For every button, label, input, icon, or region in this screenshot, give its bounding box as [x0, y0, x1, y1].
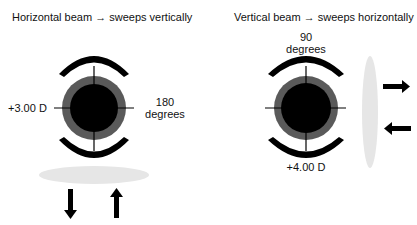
retinoscopy-diagram: tl [0, 0, 417, 225]
right-power-label: +4.00 D [283, 161, 329, 173]
arrow-down-icon [64, 189, 77, 219]
right-axis-degrees-unit: degrees [284, 43, 328, 55]
arrow-left-icon [384, 122, 411, 135]
right-axis-degrees-value: 90 [284, 31, 328, 43]
left-horizontal-beam [39, 166, 149, 184]
left-axis-degrees-unit: degrees [143, 108, 187, 120]
left-axis-label: 180 degrees [143, 96, 187, 120]
right-axis-label: 90 degrees [284, 31, 328, 55]
arrow-right-icon: tl [383, 80, 410, 93]
right-eye-figure: tl [265, 56, 411, 168]
left-power-label: +3.00 D [8, 102, 47, 114]
left-axis-degrees-value: 180 [143, 96, 187, 108]
arrow-up-icon [110, 188, 123, 218]
right-vertical-beam [362, 56, 378, 168]
left-eye-figure [39, 56, 149, 219]
